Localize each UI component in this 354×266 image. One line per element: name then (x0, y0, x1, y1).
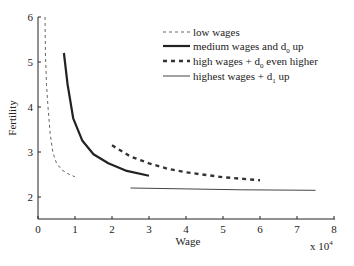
series-line-3 (131, 188, 316, 190)
x-tick-label: 2 (109, 223, 115, 235)
y-axis-label: Fertility (6, 100, 18, 136)
legend-label-2: high wages + d0 even higher (193, 55, 318, 70)
y-tick-label: 6 (28, 11, 34, 23)
x-tick-label: 0 (35, 223, 41, 235)
x-tick-label: 6 (257, 223, 263, 235)
series-line-2 (112, 145, 260, 180)
x-tick-label: 8 (331, 223, 337, 235)
y-tick-label: 2 (28, 191, 34, 203)
x-tick-label: 3 (146, 223, 152, 235)
y-tick-label: 5 (28, 56, 34, 68)
x-axis-multiplier: x 104 (310, 239, 333, 252)
legend-label-0: low wages (193, 26, 240, 38)
y-tick-label: 3 (28, 146, 34, 158)
legend-label-1: medium wages and d0 up (193, 40, 304, 55)
x-tick-label: 5 (220, 223, 226, 235)
legend-label-3: highest wages + d1 up (193, 70, 290, 85)
chart: 012345678 23456 Wage Fertility x 104 low… (0, 0, 354, 266)
x-tick-label: 4 (183, 223, 189, 235)
x-axis-label: Wage (176, 235, 201, 247)
x-tick-label: 1 (72, 223, 78, 235)
x-tick-label: 7 (294, 223, 300, 235)
y-ticks: 23456 (28, 11, 42, 203)
y-tick-label: 4 (28, 101, 34, 113)
legend: low wagesmedium wages and d0 uphigh wage… (163, 26, 318, 85)
